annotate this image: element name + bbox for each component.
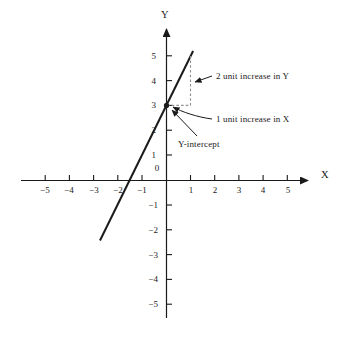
- y-axis-label: Y: [161, 9, 169, 20]
- x-tick-label: 4: [261, 185, 266, 195]
- y-tick-label: −2: [148, 225, 158, 235]
- x-tick-label: −3: [89, 185, 99, 195]
- coordinate-plane: [0, 0, 337, 341]
- intercept-annotation-arrow: [172, 110, 197, 136]
- y-tick-label: 2: [151, 125, 156, 135]
- x-tick-label: −2: [113, 185, 123, 195]
- x-tick-label: 1: [189, 185, 194, 195]
- graph-figure: X Y 0 −5 −4 −3 −2 −1 1 2 3 4 5 5 4 3 2 1…: [0, 0, 337, 341]
- rise-annotation-arrow: [195, 76, 212, 82]
- x-tick-label: 5: [286, 185, 291, 195]
- x-tick-label: −5: [40, 185, 50, 195]
- x-tick-label: −4: [64, 185, 74, 195]
- y-tick-label: 3: [151, 100, 156, 110]
- y-tick-label: 4: [151, 76, 156, 86]
- x-tick-label: 2: [213, 185, 218, 195]
- intercept-annotation-label: Y-intercept: [178, 139, 220, 149]
- y-tick-label: −3: [148, 250, 158, 260]
- y-tick-label: −4: [148, 274, 158, 284]
- y-intercept-point: [164, 103, 169, 108]
- y-tick-label: −1: [148, 200, 158, 210]
- x-tick-label: 3: [237, 185, 242, 195]
- y-tick-label: 1: [151, 150, 156, 160]
- y-tick-label: −5: [148, 299, 158, 309]
- x-axis-label: X: [321, 169, 329, 180]
- origin-label: 0: [155, 163, 160, 173]
- run-annotation-label: 1 unit increase in X: [216, 114, 289, 124]
- rise-annotation-label: 2 unit increase in Y: [216, 71, 289, 81]
- x-tick-label: −1: [137, 185, 147, 195]
- y-tick-label: 5: [151, 51, 156, 61]
